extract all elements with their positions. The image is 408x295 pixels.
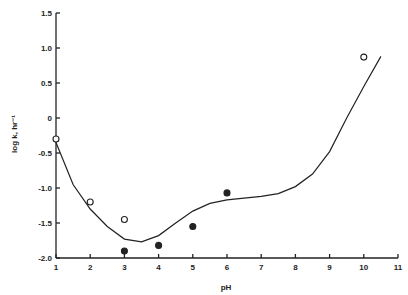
y-tick-labels: 1.51.00.50-0.5-1.0-1.5-2.0 xyxy=(38,9,52,263)
y-tick-label: 0.5 xyxy=(41,79,53,88)
plot-area xyxy=(53,54,381,254)
y-tick-label: 1.5 xyxy=(41,9,53,18)
x-tick-label: 4 xyxy=(156,263,161,272)
filled-circle-point xyxy=(224,190,230,196)
x-tick-label: 2 xyxy=(88,263,93,272)
x-tick-label: 8 xyxy=(293,263,298,272)
y-tick-label: -1.0 xyxy=(38,184,52,193)
axes xyxy=(56,13,398,258)
x-tick-label: 5 xyxy=(191,263,196,272)
y-tick-label: -1.5 xyxy=(38,219,52,228)
x-tick-label: 10 xyxy=(359,263,368,272)
open-circle-point xyxy=(87,199,93,205)
x-tick-label: 3 xyxy=(122,263,127,272)
filled-circle-point xyxy=(156,242,162,248)
filled-circle-point xyxy=(190,224,196,230)
x-tick-label: 1 xyxy=(54,263,59,272)
fitted-curve xyxy=(56,56,381,242)
y-tick-label: 0 xyxy=(48,114,53,123)
x-tick-label: 11 xyxy=(394,263,403,272)
y-tick-label: 1.0 xyxy=(41,44,53,53)
open-circle-point xyxy=(53,136,59,142)
x-tick-label: 7 xyxy=(259,263,264,272)
y-axis-label: log k, hr⁻¹ xyxy=(10,115,19,153)
y-tick-label: -0.5 xyxy=(38,149,52,158)
x-tick-label: 9 xyxy=(327,263,332,272)
filled-circle-point xyxy=(121,248,127,254)
x-tick-label: 6 xyxy=(225,263,230,272)
y-tick-label: -2.0 xyxy=(38,254,52,263)
x-tick-labels: 1234567891011 xyxy=(54,263,403,272)
open-circle-point xyxy=(121,217,127,223)
open-circle-point xyxy=(361,54,367,60)
chart: 1.51.00.50-0.5-1.0-1.5-2.0 1234567891011… xyxy=(0,0,408,295)
x-axis-label: pH xyxy=(221,283,232,292)
